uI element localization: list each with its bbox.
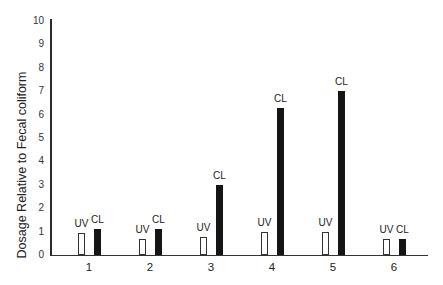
cl-bar-4	[277, 108, 284, 255]
y-tick-label: 8	[28, 62, 44, 73]
uv-bar-4	[261, 232, 268, 255]
cl-bar-5	[338, 91, 345, 255]
cl-bar-2	[155, 229, 162, 255]
y-tick-label: 5	[28, 132, 44, 143]
cl-bar-6	[399, 239, 406, 255]
uv-bar-1	[78, 233, 85, 255]
y-tick-label: 10	[28, 15, 44, 26]
cl-bar-label: CL	[147, 214, 171, 225]
cl-bar-label: CL	[208, 170, 232, 181]
uv-bar-6	[383, 239, 390, 255]
x-axis-line	[50, 255, 428, 256]
uv-bar-label: UV	[192, 222, 216, 233]
x-tick-label: 1	[79, 261, 99, 273]
y-tick-label: 2	[28, 202, 44, 213]
cl-bar-label: CL	[269, 93, 293, 104]
uv-bar-label: UV	[131, 224, 155, 235]
y-axis-label: Dosage Relative to Fecal coliform	[15, 72, 29, 259]
x-tick-label: 5	[323, 261, 343, 273]
uv-bar-3	[200, 237, 207, 255]
y-tick-label: 4	[28, 155, 44, 166]
uv-bar-2	[139, 239, 146, 255]
uv-bar-label: UV	[314, 217, 338, 228]
cl-bar-label: CL	[86, 214, 110, 225]
y-tick-label: 9	[28, 38, 44, 49]
cl-bar-label: CL	[330, 76, 354, 87]
y-tick-label: 0	[28, 249, 44, 260]
y-axis-line	[50, 19, 52, 256]
x-tick-label: 3	[201, 261, 221, 273]
x-tick-label: 6	[384, 261, 404, 273]
cl-bar-1	[94, 229, 101, 255]
cl-bar-3	[216, 185, 223, 255]
uv-bar-5	[322, 232, 329, 255]
y-tick-label: 6	[28, 109, 44, 120]
bar-chart: Dosage Relative to Fecal coliform 012345…	[0, 0, 443, 285]
x-tick-label: 4	[262, 261, 282, 273]
cl-bar-label: CL	[391, 224, 415, 235]
x-tick-label: 2	[140, 261, 160, 273]
y-tick-label: 3	[28, 179, 44, 190]
y-tick-label: 7	[28, 85, 44, 96]
uv-bar-label: UV	[253, 217, 277, 228]
y-tick-label: 1	[28, 226, 44, 237]
